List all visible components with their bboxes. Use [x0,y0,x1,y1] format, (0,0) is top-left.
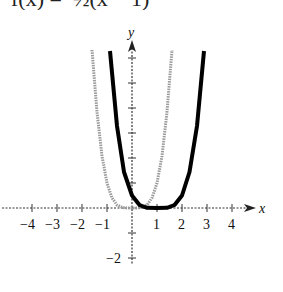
svg-text:3: 3 [203,217,210,232]
svg-text:−4: −4 [20,217,35,232]
y-tick-label-neg2: −2 [106,251,121,266]
graph: x y −4 −3 −2 −1 1 2 3 4 −2 [0,0,283,292]
svg-text:2: 2 [178,217,185,232]
svg-text:1: 1 [153,217,160,232]
svg-text:−1: −1 [95,217,110,232]
svg-text:4: 4 [228,217,235,232]
y-axis-arrow-icon [128,40,136,52]
svg-text:−2: −2 [70,217,85,232]
y-axis-label: y [126,25,135,40]
x-tick-labels: −4 −3 −2 −1 1 2 3 4 [20,217,235,232]
x-axis-arrow-icon [244,204,256,212]
x-axis-label: x [258,201,266,216]
svg-text:−3: −3 [45,217,60,232]
